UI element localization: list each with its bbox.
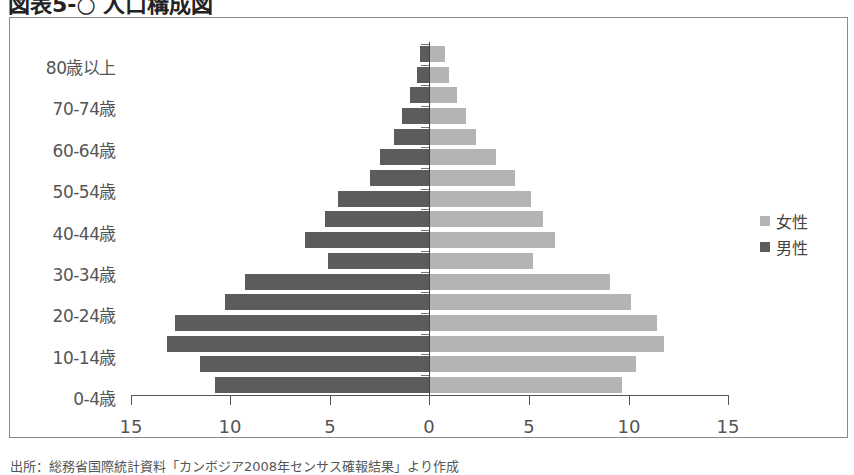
bar-female [430,377,622,393]
bar-female [430,274,610,290]
x-tick-label: 15 [708,416,748,437]
bar-female [430,67,449,83]
y-label: 50-54歳 [10,178,116,203]
y-tick [421,65,429,66]
bar-male [417,67,429,83]
y-label: 30-34歳 [10,261,116,286]
x-tick [131,395,132,405]
male-swatch-icon [760,242,770,252]
bar-female [430,149,496,165]
bar-male [410,87,429,103]
x-tick-label: 0 [409,416,449,437]
bar-male [225,294,429,310]
y-tick [421,127,429,128]
bar-female [430,87,457,103]
y-label: 10-14歳 [10,344,116,369]
bar-male [420,46,429,62]
bar-female [430,191,531,207]
bar-male [245,274,429,290]
y-tick [421,44,429,45]
y-tick [421,251,429,252]
bar-male [325,211,429,227]
y-tick [421,375,429,376]
bar-male [305,232,429,248]
x-tick-label: 5 [509,416,549,437]
y-tick [421,209,429,210]
y-tick [421,230,429,231]
y-label: 20-24歳 [10,302,116,327]
bar-female [430,253,533,269]
y-tick [421,189,429,190]
bar-male [175,315,429,331]
bar-female [430,108,466,124]
bar-female [430,129,476,145]
x-tick [429,395,430,405]
x-tick [230,395,231,405]
y-tick [421,292,429,293]
y-tick [421,147,429,148]
y-label: 40-44歳 [10,220,116,245]
bar-female [430,336,664,352]
bar-male [402,108,429,124]
x-tick [629,395,630,405]
female-swatch-icon [760,216,770,226]
x-tick-label: 10 [210,416,250,437]
y-tick [421,85,429,86]
bar-male [215,377,429,393]
y-label: 0-4歳 [10,385,116,410]
legend: 女性 男性 [760,208,808,260]
y-tick [421,354,429,355]
bar-female [430,170,515,186]
y-tick [421,334,429,335]
x-tick [330,395,331,405]
legend-label-female: 女性 [776,209,808,233]
bar-male [394,129,429,145]
bar-male [200,356,429,372]
x-tick-label: 15 [111,416,151,437]
legend-item-female: 女性 [760,208,808,234]
y-tick [421,313,429,314]
zero-axis-line [429,42,430,396]
legend-label-male: 男性 [776,235,808,259]
bar-female [430,232,555,248]
figure-title: 図表5-○ 人口構成図 [8,0,213,18]
source-footnote: 出所：総務省国際統計資料「カンボジア2008年センサス確報結果」より作成 [10,456,459,475]
x-tick [529,395,530,405]
y-tick [421,272,429,273]
bar-male [370,170,429,186]
y-label: 70-74歳 [10,95,116,120]
y-label: 80歳以上 [10,54,116,79]
bar-male [328,253,429,269]
y-label: 60-64歳 [10,137,116,162]
bar-female [430,46,445,62]
bar-female [430,294,631,310]
bar-female [430,211,543,227]
bar-male [380,149,429,165]
bar-female [430,315,657,331]
y-tick [421,168,429,169]
bar-female [430,356,636,372]
bar-male [338,191,429,207]
bar-male [167,336,429,352]
x-tick [728,395,729,405]
x-axis-line [131,395,729,396]
y-tick [421,106,429,107]
x-tick-label: 5 [310,416,350,437]
x-tick-label: 10 [609,416,649,437]
legend-item-male: 男性 [760,234,808,260]
